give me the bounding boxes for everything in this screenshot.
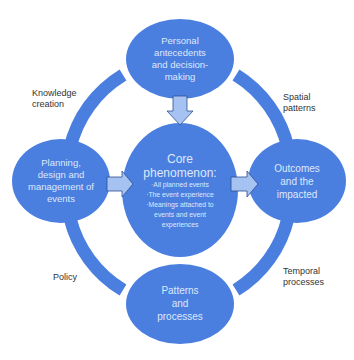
node-left-line: Planning, xyxy=(41,157,81,169)
node-center-title: phenomenon: xyxy=(143,166,216,180)
label-line: Spatial xyxy=(283,92,316,103)
node-bottom-text: Patterns and processes xyxy=(130,270,230,336)
node-top-text: Personal antecedents and decision- makin… xyxy=(130,22,230,96)
node-right-text: Outcomes and the impacted xyxy=(250,148,344,214)
node-right-line: Outcomes xyxy=(274,162,320,175)
node-left-line: events xyxy=(47,193,75,205)
node-bottom-line: processes xyxy=(157,310,203,323)
label-line: processes xyxy=(283,277,324,288)
ring-label-spatial-patterns: Spatial patterns xyxy=(283,92,316,114)
node-right-line: and the xyxy=(280,175,313,188)
node-center-bullet: ·The event experience xyxy=(146,190,214,200)
ring-arc-top-right xyxy=(236,75,288,148)
node-top-line: and decision- xyxy=(152,59,209,71)
ring-arc-bottom-left xyxy=(70,218,123,290)
node-top-line: making xyxy=(165,71,196,83)
label-line: patterns xyxy=(283,103,316,114)
ring-arc-bottom-right xyxy=(236,218,288,290)
ring-arc-top-left xyxy=(70,75,123,148)
label-line: Policy xyxy=(53,272,77,283)
node-top-line: Personal xyxy=(161,35,199,47)
node-center-bullet: experiences xyxy=(162,220,199,230)
ring-label-knowledge-creation: Knowledge creation xyxy=(32,88,77,110)
label-line: Temporal xyxy=(283,266,324,277)
label-line: creation xyxy=(32,99,77,110)
ring-label-temporal-processes: Temporal processes xyxy=(283,266,324,288)
node-center-text: Core phenomenon: ·All planned events ·Th… xyxy=(124,142,236,240)
node-center-title: Core xyxy=(167,152,193,166)
arrow-down-icon xyxy=(167,96,193,125)
node-left-line: management of xyxy=(28,181,94,193)
node-center-bullet: ·All planned events xyxy=(151,180,209,190)
node-left-text: Planning, design and management of event… xyxy=(14,144,108,218)
node-left-line: design and xyxy=(38,169,84,181)
node-bottom-line: and xyxy=(172,297,189,310)
ring-label-policy: Policy xyxy=(53,272,77,283)
node-center-bullet: ·Meanings attached to xyxy=(146,200,213,210)
node-bottom-line: Patterns xyxy=(161,284,198,297)
node-top-line: antecedents xyxy=(154,47,206,59)
node-right-line: impacted xyxy=(277,188,318,201)
label-line: Knowledge xyxy=(32,88,77,99)
node-center-bullet: events and event xyxy=(154,210,206,220)
